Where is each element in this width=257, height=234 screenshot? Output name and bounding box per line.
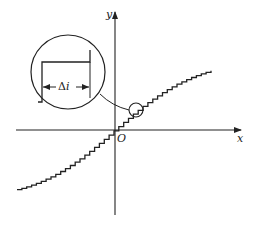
y-axis-label: y	[106, 9, 112, 20]
delta-i-label: Δi	[58, 81, 69, 92]
origin-label: O	[117, 133, 126, 144]
staircase-diagram	[0, 0, 257, 234]
x-axis-label: x	[237, 133, 243, 144]
delta-variable: i	[66, 80, 70, 93]
delta-symbol: Δ	[58, 80, 66, 93]
